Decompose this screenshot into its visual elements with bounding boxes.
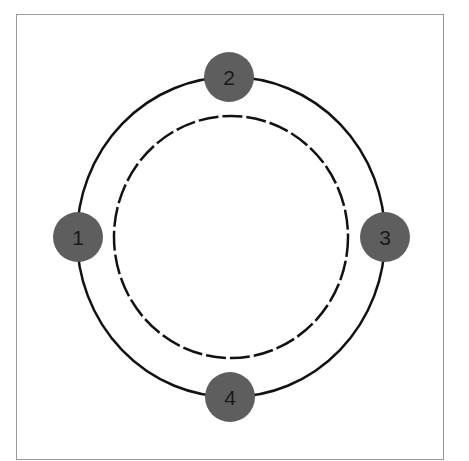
outer-ring xyxy=(77,77,385,397)
node-2: 2 xyxy=(204,52,254,102)
node-label: 3 xyxy=(379,226,391,249)
cycle-diagram: 1 2 3 4 xyxy=(0,0,469,461)
node-label: 2 xyxy=(223,66,235,89)
inner-dashed-ring xyxy=(114,116,348,358)
node-4: 4 xyxy=(205,372,255,422)
node-label: 4 xyxy=(224,386,236,409)
node-3: 3 xyxy=(360,212,410,262)
node-1: 1 xyxy=(53,212,103,262)
node-label: 1 xyxy=(72,226,84,249)
